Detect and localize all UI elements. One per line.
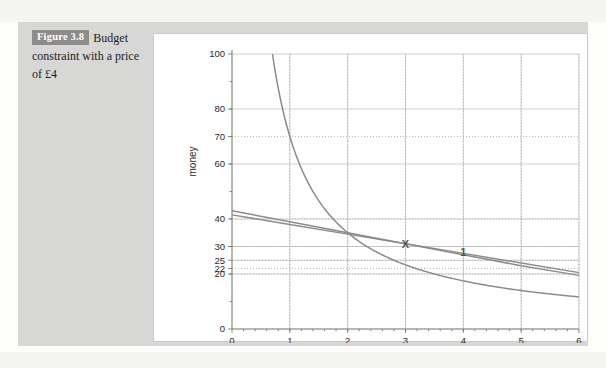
y-axis-title: money (187, 146, 198, 176)
y-tick-label: 100 (209, 48, 225, 59)
figure-root: Figure 3.8Budget constraint with a price… (0, 0, 606, 368)
chart-svg: X1 020222530406070801000123456quantity o… (154, 34, 589, 343)
x-tick-label: 1 (287, 335, 292, 343)
y-tick-label: 0 (220, 323, 225, 334)
grid-layer (232, 54, 579, 329)
x-tick-label: 3 (403, 335, 408, 343)
x-tick-label: 0 (229, 335, 234, 343)
annotation-marker-1: 1 (460, 246, 466, 258)
plot-panel: X1 020222530406070801000123456quantity o… (153, 33, 588, 342)
y-tick-label: 25 (214, 255, 225, 266)
y-tick-label: 70 (214, 131, 225, 142)
y-tick-label: 80 (214, 103, 225, 114)
figure-caption: Figure 3.8Budget constraint with a price… (32, 28, 150, 82)
x-tick-label: 2 (345, 335, 350, 343)
page-texture-band-top (0, 0, 606, 22)
y-tick-label: 40 (214, 213, 225, 224)
y-tick-label: 30 (214, 241, 225, 252)
figure-panel: Figure 3.8Budget constraint with a price… (18, 22, 588, 346)
figure-number-badge: Figure 3.8 (32, 30, 89, 45)
x-tick-label: 4 (461, 335, 466, 343)
y-tick-label: 60 (214, 158, 225, 169)
page-texture-band-bottom (0, 352, 606, 368)
axis-label-layer: 020222530406070801000123456quantity of t… (187, 48, 582, 343)
x-tick-label: 5 (519, 335, 524, 343)
annotation-marker-x: X (402, 238, 410, 250)
x-tick-label: 6 (576, 335, 581, 343)
